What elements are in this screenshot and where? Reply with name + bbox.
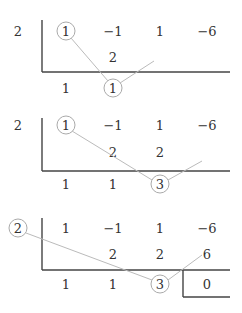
synthetic-division-diagram: 2 1 −1 1 −6 2 1 1 2 1 −1 1 −6 2 2 1 1 3 … — [0, 0, 242, 313]
product-1: 2 — [109, 247, 117, 262]
coef-4: −6 — [197, 221, 216, 236]
step-3: 2 1 −1 1 −6 2 2 6 1 1 3 0 — [9, 218, 230, 297]
divisor: 2 — [14, 118, 22, 133]
result-2: 1 — [109, 81, 117, 96]
coef-2: −1 — [103, 118, 122, 133]
product-1: 2 — [109, 50, 117, 65]
product-2: 2 — [156, 247, 164, 262]
coef-1: 1 — [62, 118, 70, 133]
result-3: 3 — [156, 277, 164, 292]
product-2: 2 — [156, 145, 164, 160]
coef-4: −6 — [197, 24, 216, 39]
result-3: 3 — [156, 177, 164, 192]
divisor: 2 — [14, 24, 22, 39]
coef-1: 1 — [62, 221, 70, 236]
result-1: 1 — [62, 177, 70, 192]
step-2: 2 1 −1 1 −6 2 2 1 1 3 — [14, 116, 230, 193]
coef-2: −1 — [103, 221, 122, 236]
coef-4: −6 — [197, 118, 216, 133]
result-2: 1 — [109, 177, 117, 192]
result-1: 1 — [62, 81, 70, 96]
arrow-line — [72, 131, 152, 180]
coef-3: 1 — [156, 221, 164, 236]
coef-3: 1 — [156, 24, 164, 39]
remainder: 0 — [203, 277, 211, 292]
coef-2: −1 — [103, 24, 122, 39]
coef-3: 1 — [156, 118, 164, 133]
arrow-line — [71, 38, 108, 81]
arrow-line — [168, 255, 202, 280]
result-1: 1 — [62, 277, 70, 292]
coef-1: 1 — [62, 24, 70, 39]
arrow-line — [26, 233, 152, 280]
divisor: 2 — [14, 221, 22, 236]
result-2: 1 — [109, 277, 117, 292]
step-1: 2 1 −1 1 −6 2 1 1 — [14, 20, 230, 97]
product-3: 6 — [203, 247, 211, 262]
